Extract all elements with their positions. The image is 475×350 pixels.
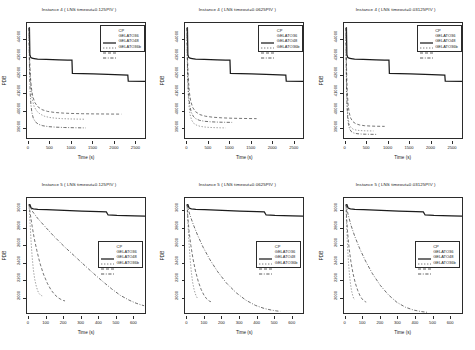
x-tick-label: 500 [271,320,278,325]
x-tick-mark [388,141,389,144]
y-tick-label-text: 40000 [174,98,179,118]
y-tick-label-text: 3000 [16,198,21,218]
y-tick-label-text: 39000 [174,116,179,136]
y-tick-label-text: 44000 [332,27,337,47]
x-tick-label: 1000 [383,145,392,150]
series-line-GELATO48 [346,28,385,127]
y-tick-label-text: 2600 [332,233,337,253]
x-tick-label: 600 [130,320,137,325]
y-axis-ticks: 200022002400260028003000 [12,197,26,314]
x-tick-mark [46,316,47,319]
x-tick-mark [98,316,99,319]
series-line-CP [187,205,303,217]
legend: CPGELATO36GELATO48GELATO36b [256,241,301,268]
x-axis-ticks: 05001000150020002500 [343,141,463,151]
x-tick-label: 400 [253,320,260,325]
y-axis-ticks: 200022002400260028003000 [170,197,184,314]
y-axis-label: PDB [319,22,329,139]
x-tick-label: 1000 [66,145,75,150]
x-tick-mark [431,141,432,144]
x-tick-label: 500 [204,145,211,150]
panel-title: Instance 5 ( LNS timeout=0.125PIV ) [0,182,158,187]
y-tick-label-text: 2600 [16,233,21,253]
y-axis-ticks: 200022002400260028003000 [329,197,343,314]
x-tick-mark [397,316,398,319]
y-tick-label-text: 43000 [174,45,179,65]
x-axis-ticks: 0100200300400500600 [343,316,463,326]
series-line-CP [29,205,145,217]
x-tick-label: 100 [359,320,366,325]
chart-panel-1: Instance 4 ( LNS timeout=0.125PIV )CPGEL… [0,0,158,175]
x-tick-label: 2500 [131,145,140,150]
y-tick-label-text: 2400 [16,250,21,270]
y-tick-label-text: 40000 [332,98,337,118]
series-line-GELATO36 [346,205,355,300]
legend: CPGELATO36GELATO48GELATO36b [415,241,460,268]
y-tick-label-text: 2200 [174,268,179,288]
x-tick-label: 200 [376,320,383,325]
y-tick-label-text: 3000 [174,198,179,218]
x-tick-label: 0 [27,320,29,325]
x-tick-label: 1500 [405,145,414,150]
legend: CPGELATO36GELATO48GELATO36b [258,25,303,52]
x-tick-mark [366,141,367,144]
x-tick-mark [116,316,117,319]
x-tick-label: 300 [236,320,243,325]
x-tick-mark [221,316,222,319]
legend: CPGELATO36GELATO48GELATO36b [100,25,145,52]
y-axis-label: PDB [2,22,12,139]
x-tick-mark [450,316,451,319]
x-tick-mark [204,316,205,319]
x-tick-label: 0 [344,145,346,150]
x-tick-label: 200 [218,320,225,325]
x-tick-mark [345,316,346,319]
y-axis-label: PDB [319,197,329,314]
x-tick-mark [208,141,209,144]
series-line-GELATO36 [187,28,226,128]
x-tick-mark [409,141,410,144]
x-tick-mark [272,141,273,144]
x-tick-mark [135,141,136,144]
x-tick-label: 2500 [289,145,298,150]
y-tick-label-text: 39000 [332,116,337,136]
y-tick-label-text: 2800 [16,215,21,235]
x-tick-mark [362,316,363,319]
x-tick-label: 100 [42,320,49,325]
x-tick-mark [71,141,72,144]
x-tick-label: 500 [429,320,436,325]
x-tick-mark [251,141,252,144]
x-tick-mark [292,316,293,319]
x-tick-mark [294,141,295,144]
x-axis-ticks: 05001000150020002500 [26,141,146,151]
chart-panel-3: Instance 4 ( LNS timeout=0.03125PIV )CPG… [317,0,475,175]
x-tick-label: 0 [185,320,187,325]
x-tick-mark [229,141,230,144]
y-tick-label-text: 2200 [332,268,337,288]
panel-title: Instance 4 ( LNS timeout=0.125PIV ) [0,7,158,12]
y-axis-ticks: 390004000041000420004300044000 [12,22,26,139]
x-tick-label: 2000 [109,145,118,150]
x-tick-label: 0 [27,145,29,150]
legend: CPGELATO36GELATO48GELATO36b [417,25,462,52]
y-tick-label-text: 43000 [332,45,337,65]
x-tick-mark [28,141,29,144]
x-tick-label: 600 [447,320,454,325]
x-tick-mark [415,316,416,319]
x-tick-mark [257,316,258,319]
y-tick-label-text: 2400 [332,250,337,270]
x-tick-mark [380,316,381,319]
series-line-CP [346,205,462,217]
panel-title: Instance 5 ( LNS timeout=0.03125PIV ) [317,182,475,187]
x-axis-label: Time (s) [343,330,463,335]
series-line-GELATO48 [29,205,65,301]
legend-label: GELATO36b [275,260,298,265]
x-tick-mark [28,316,29,319]
x-axis-label: Time (s) [26,155,146,160]
y-tick-label-text: 42000 [174,63,179,83]
x-tick-label: 200 [60,320,67,325]
y-tick-label-text: 2000 [16,285,21,305]
y-tick-label-text: 44000 [174,27,179,47]
x-tick-label: 1000 [225,145,234,150]
y-tick-label-text: 2800 [332,215,337,235]
x-tick-mark [452,141,453,144]
